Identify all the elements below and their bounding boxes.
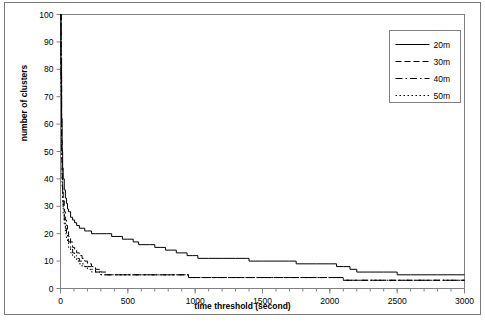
chart-figure: 0102030405060708090100050010001500200025… — [0, 0, 485, 322]
legend-label-20m: 20m — [434, 40, 451, 50]
x-axis-title: time threshold (second) — [0, 301, 485, 311]
y-tick-label: 10 — [44, 256, 54, 266]
y-tick-label: 20 — [44, 229, 54, 239]
y-tick-label: 40 — [44, 174, 54, 184]
line-chart-svg: 0102030405060708090100050010001500200025… — [0, 0, 485, 322]
y-tick-label: 100 — [39, 10, 53, 20]
legend-label-30m: 30m — [434, 57, 451, 67]
y-tick-label: 70 — [44, 92, 54, 102]
y-axis-title: number of clusters — [19, 33, 29, 173]
legend-label-50m: 50m — [434, 91, 451, 101]
legend-label-40m: 40m — [434, 74, 451, 84]
y-tick-label: 90 — [44, 37, 54, 47]
chart-legend: 20m30m40m50m — [390, 31, 461, 103]
y-tick-label: 30 — [44, 201, 54, 211]
y-tick-label: 80 — [44, 64, 54, 74]
y-tick-label: 0 — [49, 284, 54, 294]
y-tick-label: 50 — [44, 147, 54, 157]
plot-area-wrapper: 0102030405060708090100050010001500200025… — [0, 0, 485, 322]
y-tick-label: 60 — [44, 119, 54, 129]
